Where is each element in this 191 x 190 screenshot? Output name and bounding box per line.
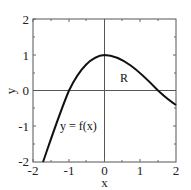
curve-f xyxy=(43,55,176,162)
curve-label: y = f(x) xyxy=(60,119,97,133)
region-label: R xyxy=(120,71,128,85)
chart: -2 -1 0 1 2 2 1 0 -1 -2 x y R y = f(x) xyxy=(0,0,191,190)
y-tick-label: 1 xyxy=(23,48,30,63)
x-axis-title: x xyxy=(101,175,108,190)
chart-svg: -2 -1 0 1 2 2 1 0 -1 -2 x y R y = f(x) xyxy=(0,0,191,190)
y-tick-label: 0 xyxy=(23,83,30,98)
x-tick-label: -2 xyxy=(28,163,39,178)
x-tick-label: 1 xyxy=(137,163,144,178)
y-axis-title: y xyxy=(3,87,18,94)
y-tick-label: -1 xyxy=(18,119,29,134)
y-tick-label: 2 xyxy=(23,12,30,27)
x-tick-label: -1 xyxy=(64,163,75,178)
x-tick-label: 2 xyxy=(173,163,180,178)
y-tick-label: -2 xyxy=(18,154,29,169)
